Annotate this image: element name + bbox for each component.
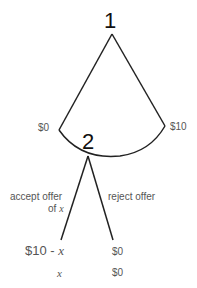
range-right-label: $10 — [170, 121, 187, 132]
accept-payoff-player1: $10 - x — [25, 243, 64, 259]
accept-payoff-prefix: $10 - — [25, 243, 58, 258]
edge-accept — [61, 156, 88, 240]
accept-label-line1: accept offer — [10, 191, 62, 202]
accept-payoff-player2: x — [57, 267, 62, 279]
accept-label-line2: of x — [48, 203, 64, 214]
accept-payoff-var: x — [58, 243, 64, 258]
offer-range-arc — [59, 126, 165, 156]
reject-payoff-player2: $0 — [112, 267, 123, 278]
accept-label-prefix: of — [48, 203, 59, 214]
edge-node1-left — [59, 34, 112, 130]
node-2-label: 2 — [82, 131, 94, 153]
reject-label: reject offer — [108, 191, 155, 202]
node-1-label: 1 — [104, 10, 116, 32]
reject-payoff-player1: $0 — [112, 246, 123, 257]
edge-node1-right — [112, 34, 165, 126]
range-left-label: $0 — [38, 122, 49, 133]
accept-label-var: x — [59, 203, 63, 214]
